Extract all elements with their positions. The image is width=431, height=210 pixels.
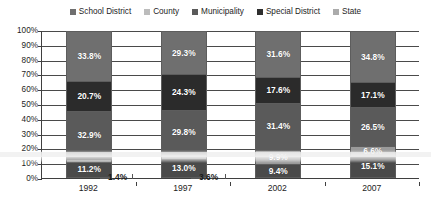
- y-axis-tick-label: 0%: [4, 175, 38, 183]
- data-label: 17.1%: [361, 91, 385, 100]
- bar-stack-2007[interactable]: 15.1%6.6%26.5%17.1%34.8%: [350, 31, 396, 178]
- y-axis-tick-label: 50%: [4, 101, 38, 109]
- bar-segment[interactable]: 9.4%: [255, 164, 301, 178]
- y-axis-tick-label: 100%: [4, 27, 38, 35]
- bar-stack-1997[interactable]: 13.0%3.6%29.8%24.3%29.3%: [161, 31, 207, 178]
- data-label: 31.6%: [266, 50, 290, 59]
- callout-tick: [225, 174, 226, 179]
- bar-segment[interactable]: 31.6%: [255, 31, 301, 78]
- bar-segment[interactable]: 34.8%: [350, 31, 396, 82]
- bar-segment[interactable]: 3.6%: [161, 154, 207, 159]
- bar-segment[interactable]: 29.3%: [161, 31, 207, 74]
- legend-item-school-district: School District: [70, 7, 131, 16]
- legend-swatch-icon: [333, 9, 339, 15]
- bar-series-container: 11.2%1.4%32.9%20.7%33.8%13.0%3.6%29.8%24…: [42, 31, 419, 178]
- bar-segment[interactable]: 31.4%: [255, 103, 301, 149]
- legend-label: County: [153, 7, 179, 16]
- x-axis-tick: [136, 182, 137, 186]
- bar-segment[interactable]: 15.1%: [350, 156, 396, 178]
- bar-segment[interactable]: 29.8%: [161, 110, 207, 154]
- bar-segment[interactable]: 9.9%: [255, 150, 301, 165]
- callout-leader-line: [100, 178, 110, 179]
- data-label: 33.8%: [77, 52, 101, 61]
- y-axis-tick-label: 70%: [4, 71, 38, 79]
- bar-segment[interactable]: 20.7%: [66, 81, 112, 111]
- x-axis-tick-label: 2007: [342, 183, 402, 193]
- data-label: 34.8%: [361, 53, 385, 62]
- y-axis-tick-label: 30%: [4, 131, 38, 139]
- legend-label: State: [342, 7, 361, 16]
- x-axis-tick-label: 2002: [247, 183, 307, 193]
- data-label: 17.6%: [266, 86, 290, 95]
- data-label: 29.8%: [172, 128, 196, 137]
- bar-segment[interactable]: 17.6%: [255, 77, 301, 103]
- y-axis-tick-label: 90%: [4, 42, 38, 50]
- legend-swatch-icon: [144, 9, 150, 15]
- x-axis-tick: [419, 182, 420, 186]
- legend-swatch-icon: [257, 9, 263, 15]
- legend-item-county: County: [144, 7, 179, 16]
- y-axis-tick-label: 20%: [4, 145, 38, 153]
- x-axis-tick: [325, 182, 326, 186]
- bar-segment[interactable]: 26.5%: [350, 107, 396, 146]
- callout-leader-line: [191, 178, 200, 179]
- bar-segment[interactable]: 1.4%: [66, 159, 112, 161]
- data-label: 32.9%: [77, 131, 101, 140]
- data-label: 15.1%: [361, 162, 385, 171]
- x-axis-labels: 1992199720022007: [41, 183, 419, 197]
- bar-segment[interactable]: 17.1%: [350, 82, 396, 107]
- legend-label: Municipality: [201, 7, 244, 16]
- stacked-bar-chart: School District County Municipality Spec…: [0, 0, 431, 210]
- bar-segment[interactable]: 11.2%: [66, 162, 112, 178]
- bar-stack-2002[interactable]: 9.4%9.9%31.4%17.6%31.6%: [255, 31, 301, 178]
- data-label: 9.9%: [269, 153, 288, 162]
- y-axis-tick-label: 60%: [4, 86, 38, 94]
- plot-area: 11.2%1.4%32.9%20.7%33.8%13.0%3.6%29.8%24…: [41, 31, 419, 179]
- x-axis-tick-label: 1992: [58, 183, 118, 193]
- callout-label-1992-special-district: 1.4%: [108, 173, 127, 182]
- data-label: 9.4%: [269, 167, 288, 176]
- data-label: 11.2%: [78, 165, 101, 174]
- data-label: 26.5%: [361, 123, 385, 132]
- callout-tick: [132, 174, 133, 179]
- legend-item-municipality: Municipality: [192, 7, 244, 16]
- y-axis-labels: 100%90%80%70%60%50%40%30%20%10%0%: [0, 31, 38, 179]
- bar-segment[interactable]: 24.3%: [161, 74, 207, 110]
- bar-segment[interactable]: 33.8%: [66, 31, 112, 81]
- data-label: 31.4%: [266, 122, 290, 131]
- data-label: 6.6%: [363, 147, 382, 156]
- x-axis-tick: [230, 182, 231, 186]
- y-axis-tick-label: 40%: [4, 116, 38, 124]
- y-axis-tick-label: 80%: [4, 57, 38, 65]
- data-label: 20.7%: [77, 92, 101, 101]
- gridline: [42, 179, 419, 180]
- y-axis-tick: [38, 179, 42, 180]
- bar-segment[interactable]: 32.9%: [66, 111, 112, 159]
- legend-item-state: State: [333, 7, 361, 16]
- legend-label: Special District: [266, 7, 320, 16]
- data-label: 24.3%: [172, 88, 196, 97]
- data-label: 29.3%: [172, 49, 196, 58]
- legend-item-special-district: Special District: [257, 7, 320, 16]
- x-axis-tick-label: 1997: [153, 183, 213, 193]
- chart-legend: School District County Municipality Spec…: [0, 7, 431, 16]
- legend-swatch-icon: [192, 9, 198, 15]
- legend-label: School District: [79, 7, 131, 16]
- callout-label-1997-special-district: 3.6%: [199, 173, 218, 182]
- bar-stack-1992[interactable]: 11.2%1.4%32.9%20.7%33.8%: [66, 31, 112, 178]
- data-label: 13.0%: [172, 164, 196, 173]
- y-axis-tick-label: 10%: [4, 160, 38, 168]
- bar-segment[interactable]: 6.6%: [350, 146, 396, 156]
- legend-swatch-icon: [70, 9, 76, 15]
